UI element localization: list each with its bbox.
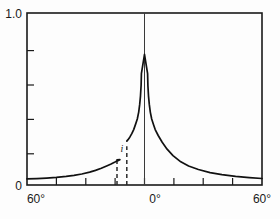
chart-svg: 1.0 0 60° 0° 60° i	[0, 0, 280, 219]
y-axis-top-label: 1.0	[5, 7, 22, 21]
chart-figure: 1.0 0 60° 0° 60° i	[0, 0, 280, 219]
x-axis-left-label: 60°	[27, 192, 45, 206]
annotation-i-label: i	[121, 143, 124, 154]
x-axis-right-label: 60°	[253, 192, 271, 206]
y-axis-bottom-label: 0	[15, 179, 22, 193]
x-axis-center-label: 0°	[149, 192, 161, 206]
chart-background	[0, 0, 280, 219]
